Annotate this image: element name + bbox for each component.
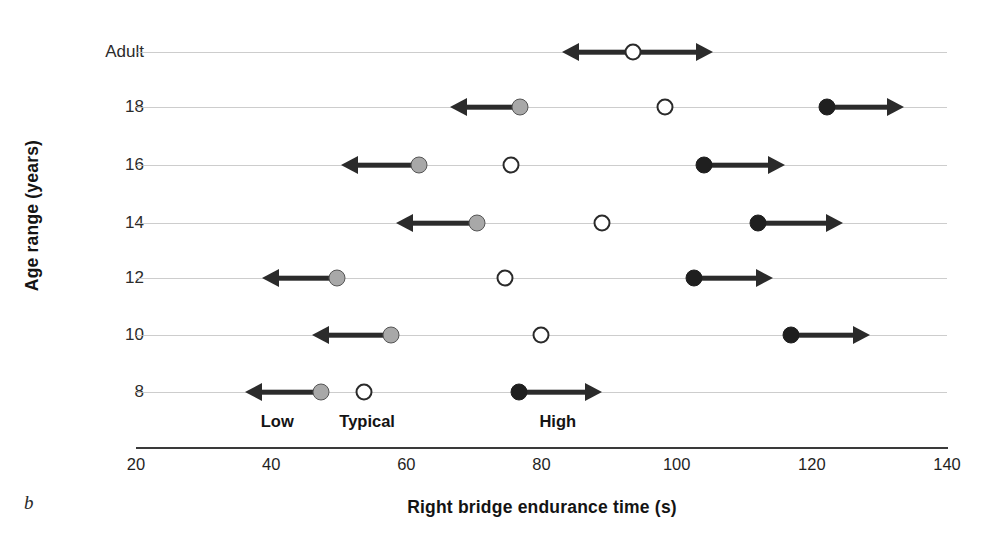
data-point-8-typical bbox=[355, 384, 372, 401]
data-point-12-low bbox=[328, 270, 345, 287]
arrow-shaft-left bbox=[413, 221, 477, 226]
arrow-shaft-right bbox=[519, 390, 585, 395]
data-point-adult-typical bbox=[625, 44, 642, 61]
annotation-low: Low bbox=[261, 412, 294, 431]
arrow-head-right bbox=[853, 326, 870, 344]
data-point-18-high bbox=[818, 99, 835, 116]
arrow-head-left bbox=[562, 43, 579, 61]
x-tick-label-40: 40 bbox=[262, 455, 280, 474]
data-point-10-low bbox=[382, 327, 399, 344]
data-point-12-high bbox=[685, 270, 702, 287]
data-point-18-typical bbox=[657, 99, 674, 116]
x-tick-label-60: 60 bbox=[397, 455, 415, 474]
arrow-head-left bbox=[341, 156, 358, 174]
arrow-shaft-right bbox=[758, 221, 825, 226]
data-point-10-high bbox=[782, 327, 799, 344]
gridline-12 bbox=[136, 278, 947, 279]
arrow-shaft-right bbox=[827, 105, 888, 110]
data-point-16-low bbox=[411, 157, 428, 174]
data-point-8-low bbox=[313, 384, 330, 401]
x-axis-line bbox=[136, 447, 948, 449]
arrow-head-right bbox=[826, 214, 843, 232]
data-point-12-typical bbox=[497, 270, 514, 287]
x-tick-label-120: 120 bbox=[798, 455, 826, 474]
data-point-14-low bbox=[468, 215, 485, 232]
x-tick-label-80: 80 bbox=[532, 455, 550, 474]
data-point-14-high bbox=[750, 215, 767, 232]
arrow-shaft-right bbox=[694, 276, 756, 281]
data-point-16-high bbox=[696, 157, 713, 174]
arrow-head-left bbox=[245, 383, 262, 401]
arrow-shaft-right bbox=[633, 50, 696, 55]
chart-figure: Age range (years) Adult18161412108 20406… bbox=[0, 0, 1002, 554]
arrow-head-right bbox=[756, 269, 773, 287]
data-point-8-high bbox=[511, 384, 528, 401]
arrow-head-right bbox=[768, 156, 785, 174]
data-point-16-typical bbox=[503, 157, 520, 174]
gridline-16 bbox=[136, 165, 947, 166]
arrow-head-right bbox=[585, 383, 602, 401]
arrow-head-left bbox=[396, 214, 413, 232]
plot-area bbox=[0, 0, 1002, 554]
arrow-shaft-right bbox=[704, 163, 767, 168]
panel-label: b bbox=[24, 492, 34, 514]
x-tick-label-100: 100 bbox=[663, 455, 691, 474]
x-tick-label-20: 20 bbox=[127, 455, 145, 474]
annotation-high: High bbox=[539, 412, 576, 431]
data-point-10-typical bbox=[532, 327, 549, 344]
arrow-head-left bbox=[312, 326, 329, 344]
arrow-head-left bbox=[450, 98, 467, 116]
annotation-typical: Typical bbox=[339, 412, 395, 431]
x-tick-label-140: 140 bbox=[933, 455, 961, 474]
arrow-shaft-right bbox=[791, 333, 853, 338]
arrow-head-left bbox=[262, 269, 279, 287]
arrow-head-right bbox=[696, 43, 713, 61]
gridline-adult bbox=[136, 52, 947, 53]
x-axis-title: Right bridge endurance time (s) bbox=[136, 497, 948, 518]
data-point-18-low bbox=[511, 99, 528, 116]
data-point-14-typical bbox=[593, 215, 610, 232]
arrow-head-right bbox=[887, 98, 904, 116]
